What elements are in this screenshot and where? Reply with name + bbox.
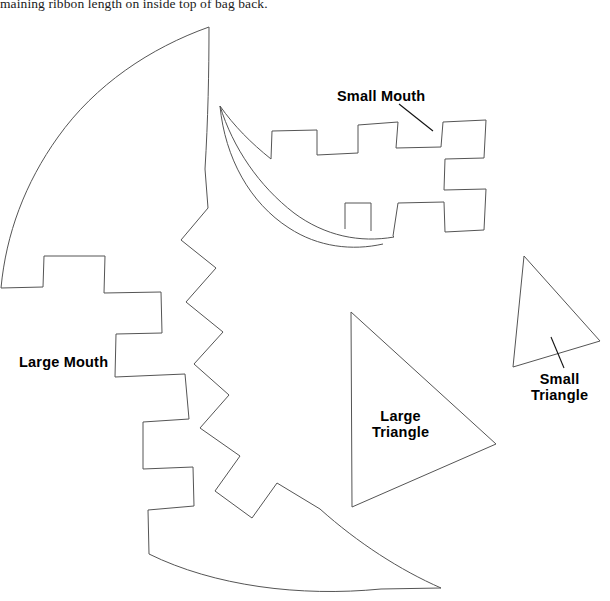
large-triangle-label-line2: Triangle bbox=[372, 424, 429, 440]
pattern-drawing bbox=[0, 0, 610, 601]
small-mouth-outline bbox=[220, 106, 486, 239]
small-mouth-inner-arc bbox=[220, 106, 383, 247]
large-mouth-label: Large Mouth bbox=[19, 354, 108, 370]
large-triangle-label-line1: Large bbox=[372, 408, 429, 424]
small-mouth-label: Small Mouth bbox=[337, 88, 425, 104]
small-triangle-label: Small Triangle bbox=[531, 371, 588, 403]
pattern-page: maining ribbon length on inside top of b… bbox=[0, 0, 610, 601]
small-mouth-leader-line bbox=[399, 104, 433, 131]
small-triangle-label-line2: Triangle bbox=[531, 387, 588, 403]
small-mouth-center-notch bbox=[345, 203, 371, 231]
small-triangle-label-line1: Small bbox=[531, 371, 588, 387]
large-triangle-label: Large Triangle bbox=[372, 408, 429, 440]
